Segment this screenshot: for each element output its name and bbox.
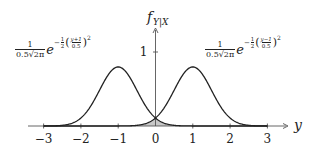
denominator: 0.5√2π bbox=[15, 49, 45, 59]
half-fraction: 12 bbox=[61, 36, 65, 49]
x-tick-label: 1 bbox=[189, 132, 197, 146]
x-tick-label: −2 bbox=[72, 132, 90, 146]
coefficient-fraction: 1 0.5√2π bbox=[205, 40, 235, 59]
left-formula-annotation: 1 0.5√2π e − 12 ( y+10.5 ) 2 bbox=[15, 40, 91, 59]
y-axis-label-subscript: Y|X bbox=[153, 17, 169, 28]
inner-fraction: y−10.5 bbox=[261, 36, 272, 49]
den-sqrt: 2π bbox=[34, 49, 44, 59]
half-fraction: 12 bbox=[251, 36, 255, 49]
exponent: − 12 ( y−10.5 ) 2 bbox=[244, 36, 281, 49]
power: 2 bbox=[87, 34, 91, 41]
den-prefix: 0.5 bbox=[206, 50, 219, 59]
numerator: 1 bbox=[27, 40, 34, 49]
exp-base: e bbox=[236, 42, 244, 57]
den-prefix: 0.5 bbox=[16, 50, 29, 59]
x-tick-label: −3 bbox=[35, 132, 53, 146]
power: 2 bbox=[277, 34, 281, 41]
exp-base: e bbox=[46, 42, 54, 57]
coefficient-fraction: 1 0.5√2π bbox=[15, 40, 45, 59]
chart-canvas: y f Y|X −3−2−10123 1 bbox=[0, 0, 314, 152]
den-sqrt: 2π bbox=[224, 49, 234, 59]
x-tick-label: 2 bbox=[226, 132, 234, 146]
x-tick-label: −1 bbox=[109, 132, 127, 146]
inner-den: 0.5 bbox=[72, 42, 81, 49]
denominator: 0.5√2π bbox=[205, 49, 235, 59]
open-paren: ( bbox=[65, 36, 69, 49]
x-ticks: −3−2−10123 bbox=[35, 124, 271, 147]
x-axis-label: y bbox=[293, 117, 303, 133]
x-tick-label: 0 bbox=[152, 132, 160, 146]
x-tick-label: 3 bbox=[264, 132, 272, 146]
right-formula-annotation: 1 0.5√2π e − 12 ( y−10.5 ) 2 bbox=[205, 40, 281, 59]
y-tick-label: 1 bbox=[140, 45, 148, 59]
inner-fraction: y+10.5 bbox=[71, 36, 82, 49]
half-den: 2 bbox=[61, 42, 65, 49]
axes: y f Y|X bbox=[28, 9, 303, 133]
numerator: 1 bbox=[217, 40, 224, 49]
exp-sign: − bbox=[244, 39, 250, 47]
open-paren: ( bbox=[255, 36, 259, 49]
inner-den: 0.5 bbox=[262, 42, 271, 49]
exponent: − 12 ( y+10.5 ) 2 bbox=[54, 36, 91, 49]
exp-sign: − bbox=[54, 39, 60, 47]
half-den: 2 bbox=[251, 42, 255, 49]
